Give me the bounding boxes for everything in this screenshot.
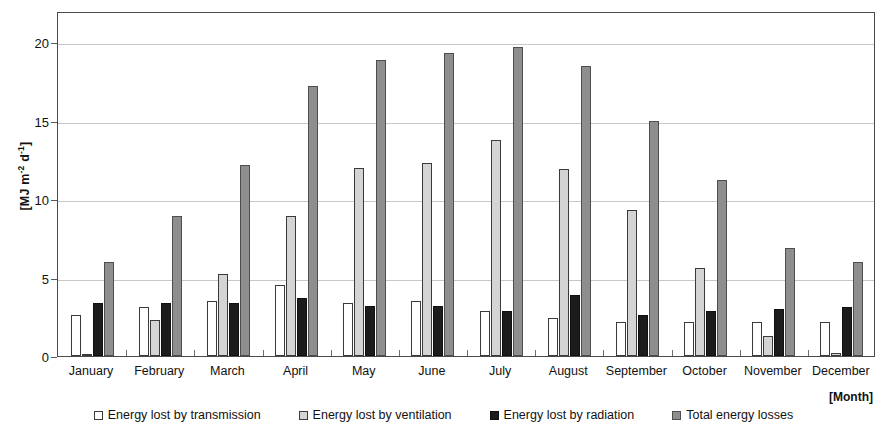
x-axis-tick-mark bbox=[672, 350, 673, 356]
y-axis-tick-label: 5 bbox=[15, 271, 49, 286]
bar bbox=[820, 322, 830, 357]
bar-group bbox=[194, 13, 262, 356]
bar bbox=[695, 268, 705, 356]
bar bbox=[150, 320, 160, 356]
bar-group bbox=[740, 13, 808, 356]
bar bbox=[422, 163, 432, 356]
bar bbox=[502, 311, 512, 356]
bar bbox=[774, 309, 784, 356]
y-axis-tick-label: 15 bbox=[15, 114, 49, 129]
bar bbox=[376, 60, 386, 356]
bar bbox=[286, 216, 296, 356]
bar-group bbox=[263, 13, 331, 356]
legend-label: Energy lost by radiation bbox=[504, 408, 635, 422]
x-axis-tick-label: August bbox=[549, 364, 588, 378]
y-axis-tick-label: 10 bbox=[15, 193, 49, 208]
bar bbox=[139, 307, 149, 356]
bar bbox=[433, 306, 443, 356]
x-axis-title: [Month] bbox=[829, 390, 873, 404]
bar bbox=[581, 66, 591, 356]
x-axis-tick-mark bbox=[603, 350, 604, 356]
bar-group bbox=[331, 13, 399, 356]
legend-item[interactable]: Energy lost by radiation bbox=[490, 408, 635, 422]
legend-swatch-icon bbox=[672, 411, 681, 420]
y-axis-tick-mark bbox=[51, 43, 57, 44]
bar bbox=[616, 322, 626, 357]
x-axis-tick-mark bbox=[399, 350, 400, 356]
bars-layer bbox=[58, 13, 874, 356]
legend-swatch-icon bbox=[490, 411, 499, 420]
legend-label: Total energy losses bbox=[686, 408, 793, 422]
bar bbox=[831, 353, 841, 356]
bar-group bbox=[808, 13, 876, 356]
bar bbox=[706, 311, 716, 356]
legend-swatch-icon bbox=[299, 411, 308, 420]
legend-item[interactable]: Energy lost by ventilation bbox=[299, 408, 452, 422]
bar bbox=[172, 216, 182, 356]
bar bbox=[82, 354, 92, 356]
bar bbox=[752, 322, 762, 357]
bar bbox=[785, 248, 795, 356]
x-axis-tick-mark bbox=[331, 350, 332, 356]
y-axis-tick-mark bbox=[51, 279, 57, 280]
bar bbox=[308, 86, 318, 356]
x-axis-tick-label: March bbox=[210, 364, 245, 378]
bar bbox=[684, 322, 694, 357]
bar bbox=[93, 303, 103, 356]
x-axis-tick-label: February bbox=[134, 364, 184, 378]
bar bbox=[570, 295, 580, 356]
bar bbox=[444, 53, 454, 356]
bar bbox=[763, 336, 773, 356]
bar bbox=[559, 169, 569, 356]
x-axis-tick-label: September bbox=[606, 364, 667, 378]
x-axis-tick-mark bbox=[740, 350, 741, 356]
bar bbox=[853, 262, 863, 356]
y-axis-tick-mark bbox=[51, 357, 57, 358]
x-axis-tick-label: October bbox=[682, 364, 726, 378]
y-axis-tick-mark bbox=[51, 122, 57, 123]
x-axis-tick-label: July bbox=[489, 364, 511, 378]
bar bbox=[240, 165, 250, 356]
x-axis-tick-mark bbox=[263, 350, 264, 356]
bar-group bbox=[126, 13, 194, 356]
bar bbox=[365, 306, 375, 356]
bar-group bbox=[672, 13, 740, 356]
x-axis-tick-label: June bbox=[418, 364, 445, 378]
y-axis-tick-label: 0 bbox=[15, 350, 49, 365]
legend-item[interactable]: Energy lost by transmission bbox=[94, 408, 261, 422]
bar bbox=[275, 285, 285, 356]
bar bbox=[638, 315, 648, 356]
y-axis-tick-mark bbox=[51, 200, 57, 201]
x-axis-tick-mark bbox=[535, 350, 536, 356]
bar bbox=[207, 301, 217, 356]
legend-item[interactable]: Total energy losses bbox=[672, 408, 793, 422]
legend-label: Energy lost by ventilation bbox=[313, 408, 452, 422]
bar bbox=[343, 303, 353, 356]
bar bbox=[218, 274, 228, 356]
x-axis-tick-mark bbox=[194, 350, 195, 356]
legend-label: Energy lost by transmission bbox=[108, 408, 261, 422]
bar bbox=[354, 168, 364, 356]
bar bbox=[513, 47, 523, 356]
x-axis-tick-label: May bbox=[352, 364, 376, 378]
plot-area bbox=[57, 12, 875, 357]
x-axis-tick-mark bbox=[126, 350, 127, 356]
bar bbox=[104, 262, 114, 356]
bar-group bbox=[399, 13, 467, 356]
chart-legend: Energy lost by transmissionEnergy lost b… bbox=[0, 408, 887, 422]
bar bbox=[229, 303, 239, 356]
x-axis-tick-mark bbox=[467, 350, 468, 356]
bar bbox=[649, 121, 659, 356]
bar bbox=[842, 307, 852, 356]
x-axis-tick-label: January bbox=[69, 364, 113, 378]
bar-group bbox=[58, 13, 126, 356]
bar bbox=[161, 303, 171, 356]
bar bbox=[411, 301, 421, 356]
y-axis-tick-label: 20 bbox=[15, 36, 49, 51]
x-axis-tick-label: April bbox=[283, 364, 308, 378]
bar bbox=[548, 318, 558, 356]
x-axis-tick-label: November bbox=[744, 364, 802, 378]
bar bbox=[480, 311, 490, 356]
bar bbox=[627, 210, 637, 356]
bar-group bbox=[603, 13, 671, 356]
